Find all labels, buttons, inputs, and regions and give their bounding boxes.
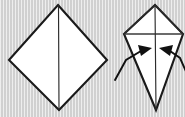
diagram-canvas	[0, 0, 185, 117]
origami-diagram	[0, 0, 185, 117]
left-origami-shape	[9, 5, 107, 110]
right-origami-shape	[124, 5, 183, 110]
left-shape-center-crease-line	[59, 5, 60, 110]
